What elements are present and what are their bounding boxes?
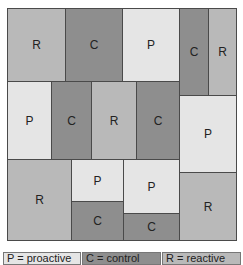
cell-c: C [71,201,124,241]
legend: P = proactiveC = controlR = reactive [3,252,241,264]
cell-r: R [91,81,137,160]
cell-label: R [218,45,227,59]
cell-label: R [32,38,41,52]
cell-label: C [67,114,76,128]
cell-c: C [179,8,209,96]
cell-label: C [147,220,156,234]
cell-label: P [93,174,101,188]
cell-label: P [147,38,155,52]
cell-c: C [51,81,92,160]
cell-label: R [35,193,44,207]
cell-label: P [204,127,212,141]
cell-label: C [190,45,199,59]
cell-c: C [65,8,123,82]
cell-label: C [154,114,163,128]
cell-r: R [208,8,237,96]
cell-p: P [7,81,52,160]
cell-label: R [204,200,213,214]
cell-c: C [136,81,180,160]
cell-label: P [25,114,33,128]
legend-item-r: R = reactive [162,252,241,265]
cell-r: R [7,159,72,241]
mosaic-diagram: RCPCRPCRCPRPCPCR [7,8,237,241]
cell-label: R [110,114,119,128]
cell-p: P [122,8,180,82]
cell-p: P [179,95,237,173]
cell-p: P [71,159,124,202]
cell-label: C [90,38,99,52]
cell-p: P [123,159,180,214]
cell-r: R [179,172,237,241]
legend-item-p: P = proactive [3,252,81,265]
legend-item-c: C = control [82,252,161,265]
cell-r: R [7,8,66,82]
cell-label: C [93,214,102,228]
cell-c: C [123,213,180,241]
cell-label: P [147,180,155,194]
